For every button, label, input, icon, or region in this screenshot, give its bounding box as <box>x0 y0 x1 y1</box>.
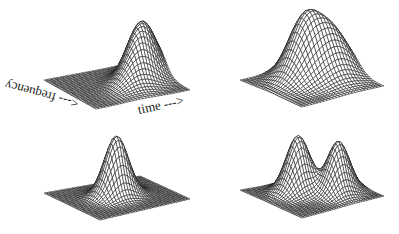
figure-canvas <box>0 0 399 234</box>
surface-plot-top-right <box>240 10 384 108</box>
mesh-cell <box>98 219 102 220</box>
mesh-cell <box>95 108 100 110</box>
surface-plot-bottom-left <box>44 136 190 220</box>
surface-plot-bottom-right <box>240 136 384 218</box>
